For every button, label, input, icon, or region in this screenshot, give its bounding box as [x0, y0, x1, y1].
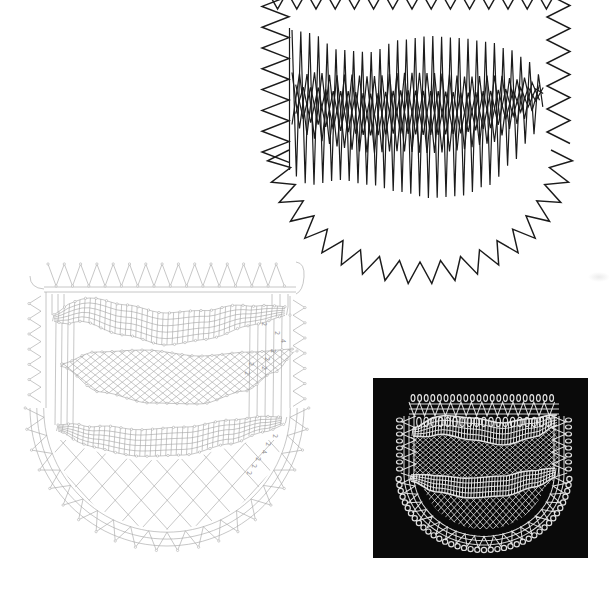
pin-dot	[209, 447, 211, 449]
pin-dot	[141, 349, 143, 351]
pin-dot	[194, 263, 196, 265]
pin-dot	[196, 403, 198, 405]
pin-dot	[296, 350, 298, 352]
pin-dot	[142, 338, 144, 340]
left-pin-band	[29, 296, 41, 402]
pin-dot	[278, 316, 280, 318]
pin-dot	[99, 425, 101, 427]
pin-dot	[72, 438, 74, 440]
pin-dot	[24, 407, 26, 409]
pair-count-label: 2	[271, 434, 279, 438]
pin-dot	[131, 349, 133, 351]
pin-dot	[53, 314, 55, 316]
pin-dot	[242, 304, 244, 306]
pin-dot	[251, 434, 253, 436]
pin-dot	[177, 454, 179, 456]
pin-dot	[176, 549, 178, 551]
pin-dot	[283, 487, 285, 489]
pin-dot	[218, 540, 220, 542]
pin-dot	[193, 425, 195, 427]
pin-dot	[254, 519, 256, 521]
pricking-diagram-panel: 22422222224222	[18, 256, 318, 556]
pin-dot	[145, 263, 147, 265]
pin-dot	[304, 367, 306, 369]
pricking-diagram-drawing: 22422222224222	[18, 256, 318, 556]
pin-dot	[308, 407, 310, 409]
pin-dot	[134, 546, 136, 548]
pair-count-label: 2	[264, 442, 272, 446]
pin-dot	[130, 428, 132, 430]
pin-dot	[304, 322, 306, 324]
pin-dot	[104, 285, 106, 287]
pin-dot	[28, 302, 30, 304]
pin-dot	[155, 549, 157, 551]
pin-dot	[109, 425, 111, 427]
pin-dot	[114, 540, 116, 542]
pair-count-label: 4	[279, 339, 287, 343]
pair-count-label: 2	[243, 371, 251, 375]
pin-dot	[88, 285, 90, 287]
pin-dot	[241, 351, 243, 353]
middle-net-ground	[0, 340, 382, 410]
pin-dot	[74, 300, 76, 302]
pin-dot	[171, 352, 173, 354]
pin-dot	[112, 263, 114, 265]
pin-dot	[251, 351, 253, 353]
pin-dot	[67, 423, 69, 425]
pair-count-label: 2	[273, 331, 281, 335]
pin-dot	[57, 424, 59, 426]
pin-dot	[198, 451, 200, 453]
pin-dot	[89, 322, 91, 324]
pin-dot	[256, 383, 258, 385]
pin-dot	[270, 504, 272, 506]
pin-dot	[259, 263, 261, 265]
scan-smudge	[588, 272, 610, 282]
pin-dot	[116, 303, 118, 305]
pricking-lines	[25, 262, 309, 550]
pin-dot	[162, 427, 164, 429]
pin-dot	[126, 397, 128, 399]
pin-dot	[95, 531, 97, 533]
pin-dot	[120, 285, 122, 287]
pin-dot	[26, 428, 28, 430]
pin-dot	[231, 304, 233, 306]
pin-dot	[197, 546, 199, 548]
pair-count-label: 2	[254, 457, 262, 461]
pin-dot	[28, 333, 30, 335]
pin-dot	[277, 416, 279, 418]
pin-dot	[240, 440, 242, 442]
pin-dot	[128, 263, 130, 265]
pin-dot	[121, 350, 123, 352]
pin-dot	[28, 378, 30, 380]
pair-count-label: 2	[245, 471, 253, 475]
pin-dot	[131, 335, 133, 337]
pin-dot	[242, 263, 244, 265]
pin-dot	[304, 352, 306, 354]
pin-dot	[151, 428, 153, 430]
lace-photo-panel	[373, 378, 588, 558]
pin-dot	[275, 263, 277, 265]
pin-dot	[38, 469, 40, 471]
pin-dot	[283, 285, 285, 287]
pin-dot	[194, 339, 196, 341]
pin-dot	[276, 370, 278, 372]
pin-dot	[257, 323, 259, 325]
pin-dot	[282, 423, 284, 425]
pin-dot	[93, 446, 95, 448]
pin-dot	[172, 426, 174, 428]
working-diagram-drawing	[250, 0, 585, 295]
pin-dot	[126, 304, 128, 306]
pin-dot	[204, 423, 206, 425]
pin-dot	[294, 469, 296, 471]
pin-dot	[49, 487, 51, 489]
right-zigzag-border	[547, 0, 570, 144]
pair-count-label: 2	[263, 357, 271, 361]
left-zigzag-border	[262, 0, 289, 162]
pin-dot	[141, 429, 143, 431]
pin-dot	[236, 327, 238, 329]
pin-dot	[62, 504, 64, 506]
pin-dot	[137, 306, 139, 308]
pin-dot	[304, 382, 306, 384]
pin-dot	[100, 327, 102, 329]
pin-dot	[256, 416, 258, 418]
